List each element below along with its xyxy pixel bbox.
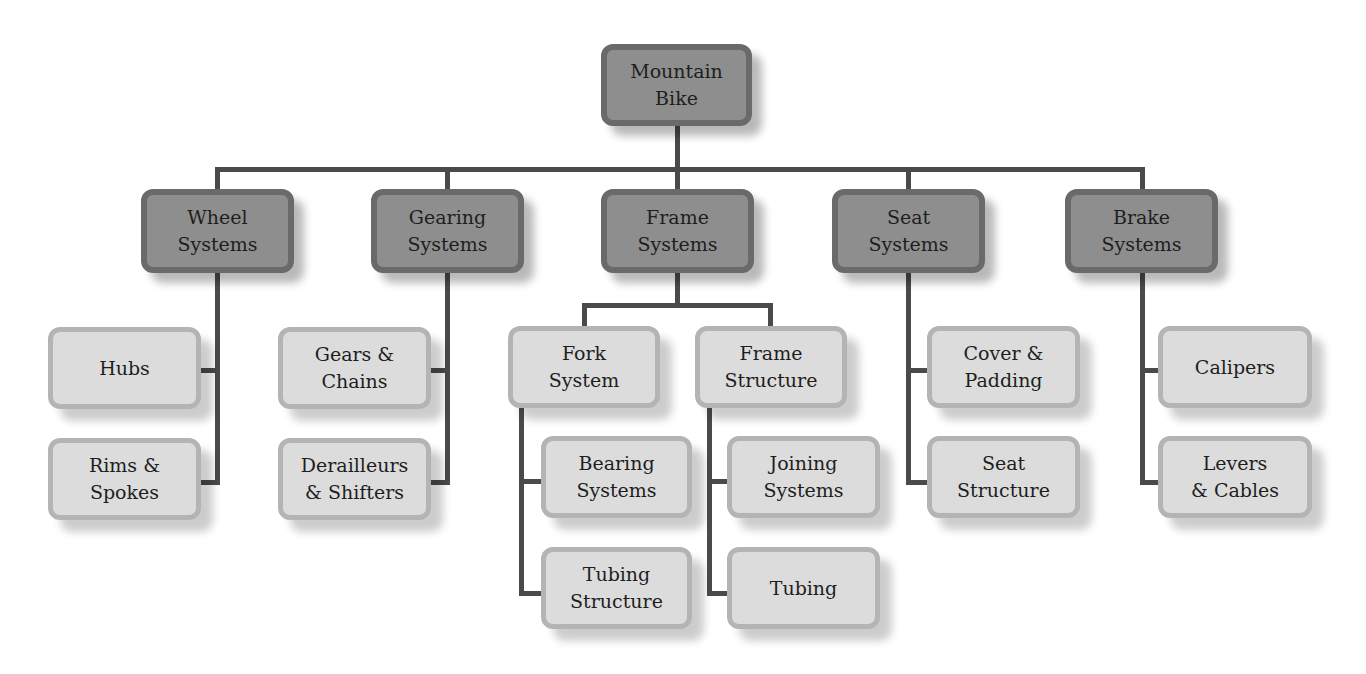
connector-brake-spine: [1140, 272, 1145, 484]
connector-gearing-spine: [445, 272, 450, 484]
node-seat-structure: Seat Structure: [927, 436, 1080, 518]
node-tubing-structure: Tubing Structure: [541, 547, 692, 629]
node-joining-systems: Joining Systems: [727, 436, 880, 518]
connector-fork-up: [582, 303, 587, 327]
node-frame-systems: Frame Systems: [601, 189, 754, 273]
connector-joining: [707, 479, 729, 484]
connector-tubing: [707, 591, 729, 596]
node-cover-padding: Cover & Padding: [927, 326, 1080, 408]
node-derailleurs-shifters: Derailleurs & Shifters: [278, 438, 431, 520]
node-brake-systems: Brake Systems: [1065, 189, 1218, 273]
mountain-bike-hierarchy-diagram: Mountain Bike Wheel Systems Gearing Syst…: [0, 0, 1366, 674]
connector-root-down: [675, 125, 680, 172]
node-tubing: Tubing: [727, 547, 880, 629]
connector-gearing-up: [445, 167, 450, 190]
connector-seat-structure: [906, 480, 928, 485]
connector-frame-structure-spine: [707, 408, 712, 596]
connector-seat-up: [906, 167, 911, 190]
connector-gears: [430, 368, 450, 373]
connector-seat-spine: [906, 272, 911, 484]
connector-wheel-spine: [215, 272, 220, 484]
connector-calipers: [1140, 368, 1160, 373]
node-fork-system: Fork System: [508, 326, 660, 408]
connector-bearing: [519, 479, 542, 484]
node-levers-cables: Levers & Cables: [1158, 436, 1312, 518]
connector-frame-structure-up: [768, 303, 773, 327]
connector-frame-up: [675, 167, 680, 190]
node-hubs: Hubs: [48, 327, 201, 409]
connector-levers: [1140, 480, 1160, 485]
connector-hubs: [200, 368, 220, 373]
node-frame-structure: Frame Structure: [695, 326, 847, 408]
node-bearing-systems: Bearing Systems: [541, 436, 692, 518]
connector-level1-horizontal: [215, 167, 1145, 172]
connector-cover: [906, 368, 928, 373]
node-gears-chains: Gears & Chains: [278, 327, 431, 409]
connector-wheel-up: [215, 167, 220, 190]
connector-rims: [200, 480, 220, 485]
node-mountain-bike: Mountain Bike: [601, 44, 752, 126]
node-calipers: Calipers: [1158, 326, 1312, 408]
node-seat-systems: Seat Systems: [832, 189, 985, 273]
node-wheel-systems: Wheel Systems: [141, 189, 294, 273]
connector-brake-up: [1140, 167, 1145, 190]
node-gearing-systems: Gearing Systems: [371, 189, 524, 273]
node-rims-spokes: Rims & Spokes: [48, 438, 201, 520]
connector-derailleurs: [430, 480, 450, 485]
connector-fork-spine: [519, 408, 524, 596]
connector-tubing-structure: [519, 591, 542, 596]
connector-frame-sub-horizontal: [582, 303, 773, 308]
